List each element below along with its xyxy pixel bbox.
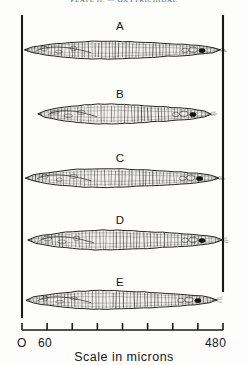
axis-label-zero: O: [17, 336, 27, 350]
scale-axis: [22, 323, 223, 330]
specimen-c: [25, 169, 225, 188]
specimen-label-c: C: [110, 152, 130, 164]
figure-root: PLATE II. — OXYTRICHIDAE A B C D E O 60 …: [0, 0, 248, 365]
frame-rules: [22, 15, 223, 318]
specimen-label-a: A: [110, 20, 130, 32]
specimen-label-e: E: [110, 276, 130, 288]
specimen-bodies: [25, 41, 229, 309]
specimen-e: [26, 290, 222, 309]
axis-label-max: 480: [205, 336, 226, 350]
specimen-label-b: B: [110, 88, 130, 100]
scale-caption: Scale in microns: [0, 350, 248, 364]
specimen-b: [38, 104, 218, 124]
axis-label-sixty: 60: [38, 336, 52, 350]
specimen-a: [25, 41, 227, 59]
specimen-plate-drawing: [0, 0, 248, 365]
specimen-label-d: D: [110, 214, 130, 226]
specimen-d: [28, 230, 228, 250]
